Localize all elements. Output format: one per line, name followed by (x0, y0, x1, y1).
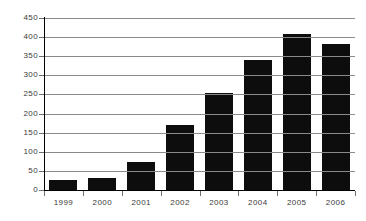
plot-area (44, 18, 355, 190)
gridline-200 (44, 114, 355, 115)
y-axis-line (44, 17, 45, 191)
bar-2006 (322, 44, 350, 190)
x-tick-mark (161, 191, 162, 196)
y-axis-tick-label: 350 (23, 52, 38, 60)
x-tick-mark (83, 191, 84, 196)
x-tick-mark (277, 191, 278, 196)
x-axis-tick-label-2003: 2003 (200, 198, 239, 207)
x-tick-mark (355, 191, 356, 196)
y-axis-tick-label: 250 (23, 90, 38, 98)
x-axis-tick-label-2002: 2002 (161, 198, 200, 207)
gridline-400 (44, 37, 355, 38)
x-tick-mark (238, 191, 239, 196)
gridline-150 (44, 133, 355, 134)
x-axis-tick-label-2000: 2000 (83, 198, 122, 207)
gridline-250 (44, 94, 355, 95)
y-axis-tick-label: 0 (33, 186, 38, 194)
y-axis-tick-label: 100 (23, 148, 38, 156)
x-axis-tick-label-2005: 2005 (277, 198, 316, 207)
y-axis-tick-label: 200 (23, 110, 38, 118)
y-axis-tick-label: 300 (23, 71, 38, 79)
bar-2003 (205, 93, 233, 190)
x-axis-tick-label-2001: 2001 (122, 198, 161, 207)
x-tick-mark (122, 191, 123, 196)
y-axis-labels: 050100150200250300350400450 (0, 0, 38, 221)
x-tick-mark-origin (44, 191, 45, 196)
bars-layer (44, 18, 355, 190)
bar-2002 (166, 125, 194, 190)
x-axis-tick-label-2006: 2006 (316, 198, 355, 207)
gridline-450 (44, 18, 355, 19)
gridline-50 (44, 171, 355, 172)
y-axis-tick-label: 400 (23, 33, 38, 41)
bar-1999 (49, 180, 77, 190)
x-tick-mark (200, 191, 201, 196)
y-axis-tick-label: 150 (23, 129, 38, 137)
bar-2001 (127, 162, 155, 190)
y-axis-tick-label: 50 (28, 167, 38, 175)
gridline-350 (44, 56, 355, 57)
bar-chart: 050100150200250300350400450 199920002001… (0, 0, 366, 221)
x-tick-mark (316, 191, 317, 196)
y-axis-tick-label: 450 (23, 14, 38, 22)
x-axis-tick-label-1999: 1999 (44, 198, 83, 207)
bar-2005 (283, 34, 311, 190)
gridline-300 (44, 75, 355, 76)
x-axis-tick-label-2004: 2004 (238, 198, 277, 207)
bar-2000 (88, 178, 116, 190)
gridline-100 (44, 152, 355, 153)
